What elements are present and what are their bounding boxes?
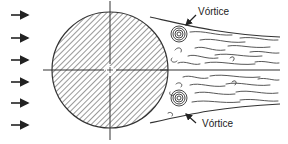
- cylinder-flow-diagram: [0, 0, 288, 144]
- vortex-bottom: [171, 90, 187, 106]
- inflow-arrows: [11, 15, 28, 125]
- pointer-arrow-icon: [186, 114, 196, 123]
- pointer-arrow-icon: [186, 15, 196, 25]
- wake-boundaries: [150, 17, 280, 123]
- vortex-label-bottom: Vórtice: [202, 119, 233, 129]
- label-pointers: [186, 15, 196, 123]
- cylinder: [43, 1, 168, 140]
- diagram-canvas: Vórtice Vórtice: [0, 0, 288, 144]
- vortex-top: [171, 26, 187, 42]
- vortex-label-top: Vórtice: [198, 7, 229, 17]
